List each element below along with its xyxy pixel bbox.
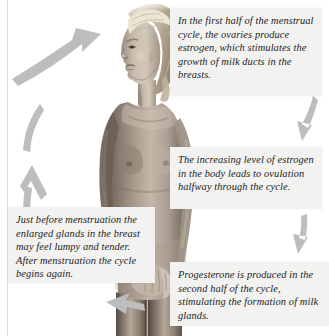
arrow-right-lower (293, 214, 308, 254)
caption-estrogen: In the first half of the menstrual cycle… (170, 8, 322, 96)
page-rule-line (7, 0, 8, 336)
caption-menstruation: Just before menstruation the enlarged gl… (8, 207, 155, 283)
caption-progesterone: Progesterone is produced in the second h… (170, 262, 329, 326)
arrow-left-upper (23, 104, 44, 152)
arrow-right-upper (297, 96, 318, 141)
menstrual-cycle-breast-figure: In the first half of the menstrual cycle… (0, 0, 329, 336)
caption-menstruation-text: Just before menstruation the enlarged gl… (16, 213, 148, 281)
caption-ovulation: The increasing level of estrogen in the … (170, 147, 322, 209)
caption-progesterone-text: Progesterone is produced in the second h… (178, 268, 322, 322)
caption-estrogen-text: In the first half of the menstrual cycle… (178, 14, 315, 82)
caption-ovulation-text: The increasing level of estrogen in the … (178, 153, 315, 194)
